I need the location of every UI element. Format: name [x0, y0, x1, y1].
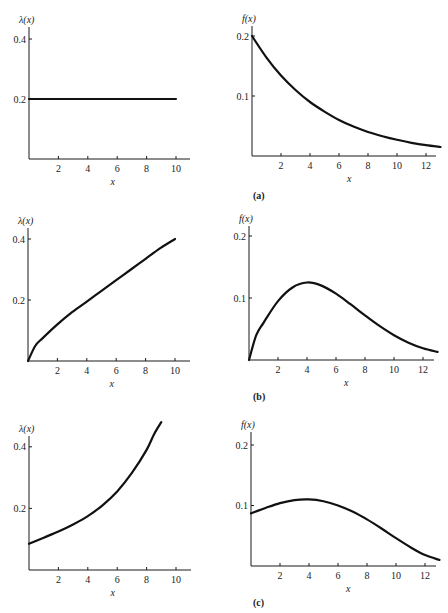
- panel-caption: (b): [253, 391, 265, 403]
- plots-group: 2468100.20.4λ(x)x246810120.10.2f(x)x2468…: [13, 13, 441, 598]
- x-axis-label: x: [110, 176, 116, 187]
- chart-a-left: 2468100.20.4λ(x)x: [14, 14, 191, 187]
- y-axis-label: f(x): [239, 213, 254, 225]
- y-tick-label: 0.4: [14, 34, 27, 45]
- x-axis-label: x: [343, 377, 349, 388]
- x-tick-label: 6: [115, 574, 120, 585]
- x-tick-label: 2: [278, 570, 283, 581]
- x-tick-label: 12: [418, 364, 428, 375]
- x-tick-label: 2: [56, 574, 61, 585]
- x-tick-label: 6: [114, 365, 119, 376]
- x-tick-label: 8: [363, 364, 368, 375]
- data-curve: [28, 239, 175, 361]
- y-tick-label: 0.2: [236, 440, 249, 451]
- x-tick-label: 8: [366, 160, 371, 171]
- x-tick-label: 6: [336, 570, 341, 581]
- y-tick-label: 0.4: [13, 234, 26, 245]
- data-curve: [251, 499, 440, 560]
- x-tick-label: 6: [334, 364, 339, 375]
- x-tick-label: 12: [420, 570, 430, 581]
- y-tick-label: 0.2: [14, 503, 27, 514]
- y-tick-label: 0.4: [14, 441, 27, 452]
- data-curve: [29, 422, 161, 544]
- captions-group: (a)(b)(c): [253, 190, 265, 609]
- y-tick-label: 0.2: [237, 31, 250, 42]
- x-tick-label: 10: [170, 365, 180, 376]
- x-tick-label: 8: [144, 163, 149, 174]
- x-tick-label: 10: [171, 163, 181, 174]
- y-axis-label: λ(x): [18, 14, 35, 26]
- x-tick-label: 4: [84, 365, 89, 376]
- x-tick-label: 8: [143, 365, 148, 376]
- x-tick-label: 8: [365, 570, 370, 581]
- x-tick-label: 10: [391, 570, 401, 581]
- x-tick-label: 10: [171, 574, 181, 585]
- x-axis-label: x: [345, 583, 351, 594]
- y-tick-label: 0.1: [237, 91, 250, 102]
- x-tick-label: 4: [85, 574, 90, 585]
- x-tick-label: 2: [56, 163, 61, 174]
- x-tick-label: 4: [308, 160, 313, 171]
- x-tick-label: 2: [276, 364, 281, 375]
- data-curve: [249, 282, 438, 360]
- x-axis-label: x: [109, 378, 115, 389]
- x-axis-label: x: [110, 587, 116, 598]
- x-tick-label: 2: [279, 160, 284, 171]
- y-tick-label: 0.2: [234, 231, 247, 242]
- y-axis-label: f(x): [241, 419, 256, 431]
- chart-a-right: 246810120.10.2f(x)x: [237, 13, 441, 184]
- x-tick-label: 6: [337, 160, 342, 171]
- x-tick-label: 4: [85, 163, 90, 174]
- x-tick-label: 12: [421, 160, 431, 171]
- chart-c-left: 2468100.20.4λ(x)x: [14, 422, 192, 598]
- y-axis-label: λ(x): [18, 423, 35, 435]
- y-axis-label: λ(x): [17, 215, 34, 227]
- chart-c-right: 246810120.10.2f(x)x: [236, 419, 440, 594]
- panel-caption: (a): [253, 190, 265, 202]
- x-tick-label: 10: [389, 364, 399, 375]
- panel-caption: (c): [253, 597, 264, 609]
- data-curve: [252, 36, 441, 147]
- y-axis-label: f(x): [242, 13, 257, 25]
- x-axis-label: x: [346, 173, 352, 184]
- y-tick-label: 0.1: [234, 293, 247, 304]
- y-tick-label: 0.2: [14, 94, 27, 105]
- x-tick-label: 8: [144, 574, 149, 585]
- figure-canvas: 2468100.20.4λ(x)x246810120.10.2f(x)x2468…: [0, 0, 448, 613]
- x-tick-label: 2: [55, 365, 60, 376]
- x-tick-label: 4: [307, 570, 312, 581]
- chart-b-right: 246810120.10.2f(x)x: [234, 213, 438, 388]
- y-tick-label: 0.1: [236, 500, 249, 511]
- x-tick-label: 10: [392, 160, 402, 171]
- x-tick-label: 4: [305, 364, 310, 375]
- y-tick-label: 0.2: [13, 295, 26, 306]
- x-tick-label: 6: [115, 163, 120, 174]
- chart-b-left: 2468100.20.4λ(x)x: [13, 215, 191, 389]
